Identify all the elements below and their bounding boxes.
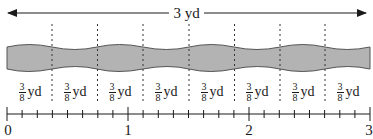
axis-label-3: 3 bbox=[365, 121, 373, 139]
fraction: 38 bbox=[155, 82, 162, 103]
fraction: 38 bbox=[246, 82, 253, 103]
segment-label: 38 yd bbox=[97, 80, 143, 104]
ribbon-division-diagram: 3 yd 38 yd 38 yd 38 yd 38 yd 38 yd 38 yd… bbox=[0, 0, 373, 139]
segment-label: 38 yd bbox=[52, 80, 98, 104]
segment-label: 38 yd bbox=[280, 80, 326, 104]
axis-label-0: 0 bbox=[4, 121, 12, 139]
fraction: 38 bbox=[64, 82, 71, 103]
axis-label-1: 1 bbox=[124, 121, 132, 139]
segment-label: 38 yd bbox=[143, 80, 189, 104]
segment-label: 38 yd bbox=[325, 80, 371, 104]
total-length-label: 3 yd bbox=[0, 4, 373, 22]
segment-label: 38 yd bbox=[7, 80, 53, 104]
fraction: 38 bbox=[337, 82, 344, 103]
fraction: 38 bbox=[201, 82, 208, 103]
segment-label: 38 yd bbox=[234, 80, 280, 104]
fraction: 38 bbox=[109, 82, 116, 103]
segment-label: 38 yd bbox=[189, 80, 235, 104]
number-line bbox=[7, 107, 370, 121]
fraction: 38 bbox=[292, 82, 299, 103]
axis-label-2: 2 bbox=[245, 121, 253, 139]
ribbon bbox=[7, 45, 370, 72]
fraction: 38 bbox=[19, 82, 26, 103]
